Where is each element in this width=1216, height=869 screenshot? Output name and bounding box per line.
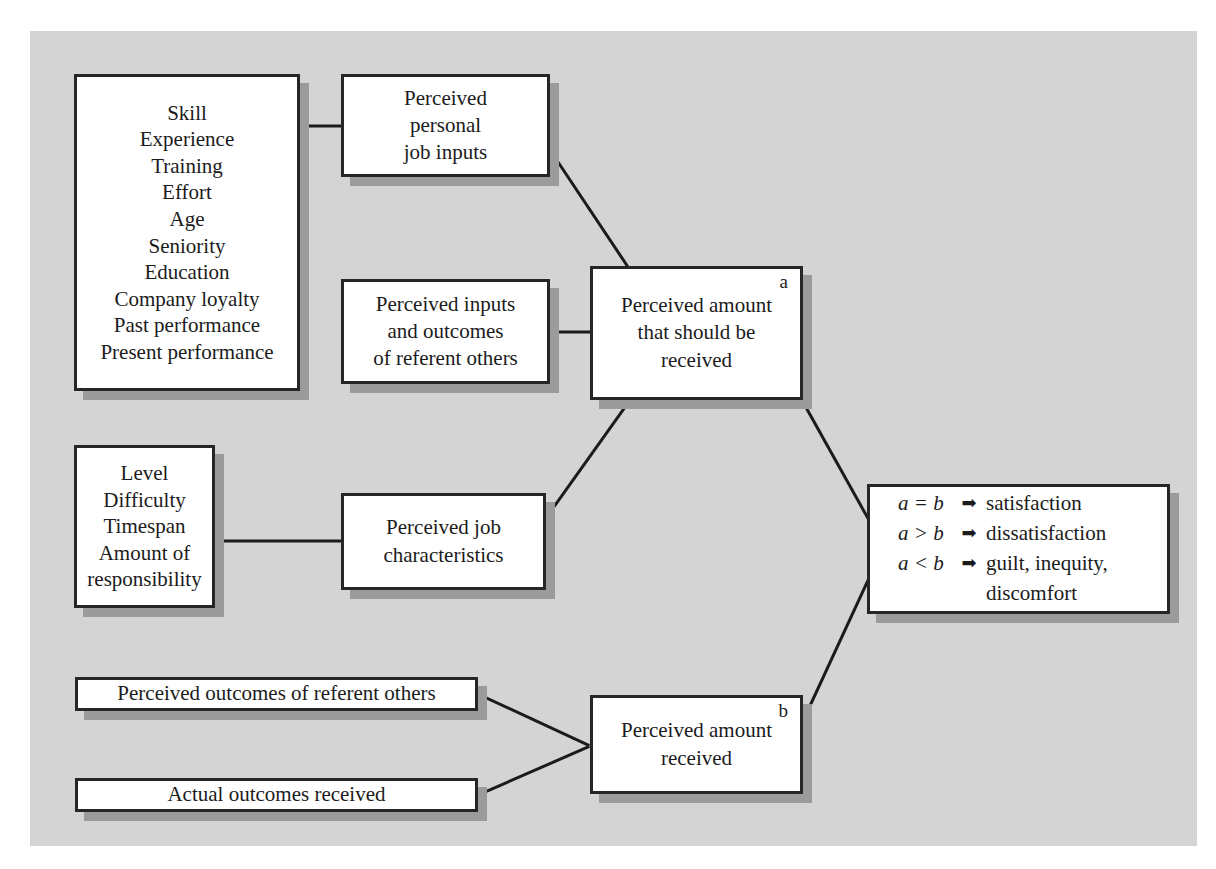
node-line: Perceived job [386, 514, 501, 541]
equity-result: guilt, inequity, [986, 549, 1108, 579]
figure-panel: Skill Experience Training Effort Age Sen… [30, 31, 1197, 846]
perceived-amount-should-be-received: a Perceived amount that should be receiv… [590, 266, 803, 400]
connector-inputs-to-should-receive [550, 150, 630, 270]
equity-result: satisfaction [986, 489, 1082, 519]
node-line: Perceived inputs [376, 291, 515, 318]
list-item: Present performance [100, 339, 273, 366]
actual-outcomes-received: Actual outcomes received [75, 778, 478, 812]
node-line: that should be [638, 319, 756, 346]
equity-row: a < b ➡ guilt, inequity, [898, 549, 1108, 579]
equity-expression: a < b [898, 549, 952, 579]
arrow-right-icon: ➡ [952, 490, 986, 516]
node-line: job inputs [404, 139, 487, 166]
node-letter-b: b [779, 701, 789, 720]
connector-received-to-outcomes [803, 576, 870, 721]
list-item: responsibility [87, 566, 201, 593]
list-item: Amount of [99, 540, 191, 567]
equity-row: a > b ➡ dissatisfaction [898, 519, 1106, 549]
node-line: Perceived [404, 85, 487, 112]
equity-expression: a = b [898, 489, 952, 519]
node-line: of referent others [373, 345, 518, 372]
perceived-inputs-outcomes-referent-others: Perceived inputs and outcomes of referen… [341, 279, 550, 384]
list-item: Education [144, 259, 229, 286]
perceived-job-characteristics: Perceived job characteristics [341, 493, 546, 590]
connector-perceived-outcomes-to-received [478, 694, 588, 745]
equity-comparison-outcomes: a = b ➡ satisfaction a > b ➡ dissatisfac… [867, 484, 1170, 614]
job-attributes-list: Level Difficulty Timespan Amount of resp… [74, 445, 215, 608]
arrow-right-icon: ➡ [952, 550, 986, 576]
list-item: Seniority [149, 233, 226, 260]
personal-attributes-list: Skill Experience Training Effort Age Sen… [74, 74, 300, 391]
list-item: Company loyalty [114, 286, 259, 313]
equity-row: a = b ➡ satisfaction [898, 489, 1082, 519]
list-item: Skill [167, 100, 207, 127]
connector-should-receive-to-outcomes [803, 402, 870, 522]
node-line: Perceived amount [621, 717, 772, 744]
list-item: Training [151, 153, 223, 180]
list-item: Timespan [103, 513, 185, 540]
perceived-personal-job-inputs: Perceived personal job inputs [341, 74, 550, 177]
list-item: Level [121, 460, 169, 487]
connector-actual-outcomes-to-received [478, 747, 588, 795]
arrow-right-icon: ➡ [952, 520, 986, 546]
list-item: Age [170, 206, 205, 233]
list-item: Experience [140, 126, 234, 153]
list-item: Difficulty [103, 487, 185, 514]
equity-expression: a > b [898, 519, 952, 549]
list-item: Effort [162, 179, 212, 206]
perceived-outcomes-of-referent-others: Perceived outcomes of referent others [75, 677, 478, 711]
equity-result: dissatisfaction [986, 519, 1106, 549]
connector-jobchar-to-should-receive [546, 400, 630, 518]
perceived-amount-received: b Perceived amount received [590, 695, 803, 794]
node-line: received [661, 745, 732, 772]
node-line: and outcomes [387, 318, 503, 345]
node-line: Perceived outcomes of referent others [117, 680, 435, 707]
node-line: characteristics [383, 542, 503, 569]
equity-result-continuation: discomfort [898, 579, 1077, 609]
node-line: Perceived amount [621, 292, 772, 319]
node-line: personal [410, 112, 481, 139]
node-letter-a: a [780, 272, 788, 291]
node-line: Actual outcomes received [167, 781, 385, 808]
list-item: Past performance [114, 312, 260, 339]
node-line: received [661, 347, 732, 374]
